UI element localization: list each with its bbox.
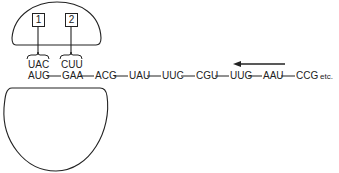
- site-box-1: 1: [32, 13, 45, 27]
- codon-9: CCG: [296, 71, 318, 81]
- codon-6: CGU: [196, 71, 218, 81]
- site-box-2: 2: [65, 13, 78, 27]
- codon-5: UUC: [162, 71, 184, 81]
- diagram-canvas: [0, 0, 339, 173]
- lower-subunit-shape: [4, 88, 108, 171]
- codon-3: ACG: [95, 71, 117, 81]
- codon-7: UUG: [230, 71, 252, 81]
- codon-8: AAU: [263, 71, 284, 81]
- codon-4: UAU: [129, 71, 150, 81]
- codon-1: AUG: [28, 71, 50, 81]
- upper-subunit-shape: [12, 2, 101, 45]
- brace-1: [27, 52, 49, 59]
- arrow-left-icon: [233, 61, 285, 67]
- codon-2: GAA: [62, 71, 83, 81]
- brace-2: [60, 52, 82, 59]
- etc-label: etc.: [320, 72, 333, 82]
- anticodon-2: CUU: [61, 60, 83, 70]
- anticodon-1: UAC: [28, 60, 49, 70]
